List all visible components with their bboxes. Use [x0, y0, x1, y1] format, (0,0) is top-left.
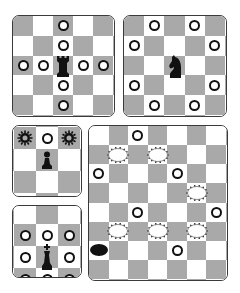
dark-square: [226, 241, 228, 261]
dark-square: [33, 36, 53, 56]
dark-square: [109, 126, 129, 146]
pawn-icon: [37, 147, 57, 173]
light-square: [14, 149, 36, 171]
dark-square: [109, 241, 129, 261]
light-square: [80, 127, 82, 149]
checkers-board: [88, 125, 228, 281]
light-square: [33, 16, 53, 36]
king-moves: [12, 205, 82, 278]
light-square: [167, 126, 187, 146]
dark-square: [226, 203, 228, 223]
light-square: [148, 183, 168, 203]
move-target-dot-icon: [189, 100, 200, 111]
light-square: [93, 36, 113, 56]
white-checker-icon: [147, 222, 169, 240]
dark-square: [13, 95, 33, 115]
light-square: [226, 145, 228, 165]
dark-square: [73, 75, 93, 95]
dark-square: [187, 203, 207, 223]
light-square: [113, 16, 115, 36]
dark-square: [113, 36, 115, 56]
dark-square: [167, 222, 187, 242]
dark-square: [113, 115, 115, 117]
dark-square: [80, 193, 82, 197]
light-square: [13, 75, 33, 95]
dark-square: [144, 75, 165, 95]
dark-square: [206, 145, 226, 165]
dark-square: [225, 36, 227, 56]
light-square: [58, 205, 80, 224]
dark-square: [109, 279, 129, 281]
dark-square: [167, 145, 187, 165]
dark-square: [185, 36, 206, 56]
capture-target-icon: [61, 130, 77, 146]
dark-square: [128, 183, 148, 203]
move-target-dot-icon: [211, 207, 222, 218]
light-square: [33, 95, 53, 115]
dark-square: [148, 164, 168, 184]
move-target-dot-icon: [58, 40, 69, 51]
move-target-dot-icon: [18, 60, 29, 71]
dark-square: [148, 241, 168, 261]
dark-square: [185, 75, 206, 95]
dark-square: [124, 95, 145, 115]
rook-icon: [53, 53, 73, 79]
move-target-dot-icon: [172, 168, 183, 179]
light-square: [73, 95, 93, 115]
light-square: [89, 203, 109, 223]
light-square: [93, 115, 113, 117]
dark-square: [206, 260, 226, 280]
pawn-moves: [12, 125, 82, 197]
light-square: [226, 260, 228, 280]
move-target-dot-icon: [20, 274, 31, 279]
move-target-dot-icon: [42, 274, 53, 279]
dark-square: [93, 95, 113, 115]
dark-square: [144, 36, 165, 56]
white-checker-icon: [107, 222, 129, 240]
dark-square: [164, 16, 185, 36]
move-target-dot-icon: [58, 20, 69, 31]
dark-square: [148, 279, 168, 281]
knight-moves: [123, 15, 227, 117]
light-square: [148, 260, 168, 280]
light-square: [53, 115, 73, 117]
move-target-dot-icon: [38, 60, 49, 71]
move-target-dot-icon: [132, 207, 143, 218]
light-square: [80, 171, 82, 193]
light-square: [109, 183, 129, 203]
light-square: [226, 222, 228, 242]
dark-square: [206, 222, 226, 242]
light-square: [226, 183, 228, 203]
dark-square: [187, 241, 207, 261]
light-square: [206, 164, 226, 184]
dark-square: [164, 95, 185, 115]
light-square: [206, 126, 226, 146]
dark-square: [109, 164, 129, 184]
light-square: [205, 115, 226, 117]
light-square: [89, 126, 109, 146]
light-square: [206, 279, 226, 281]
knight-icon: [165, 53, 185, 79]
move-target-dot-icon: [42, 133, 53, 144]
light-square: [124, 115, 145, 117]
dark-square: [187, 164, 207, 184]
light-square: [14, 205, 36, 224]
light-square: [80, 224, 82, 246]
light-square: [185, 56, 206, 76]
light-square: [128, 164, 148, 184]
dark-square: [13, 16, 33, 36]
move-target-dot-icon: [64, 274, 75, 279]
dark-square: [89, 145, 109, 165]
dark-square: [89, 260, 109, 280]
move-target-dot-icon: [20, 230, 31, 241]
white-checker-icon: [186, 184, 208, 202]
white-checker-icon: [147, 146, 169, 164]
light-square: [80, 268, 82, 278]
dark-square: [128, 222, 148, 242]
dark-square: [187, 126, 207, 146]
dark-square: [124, 56, 145, 76]
dark-square: [89, 183, 109, 203]
dark-square: [89, 222, 109, 242]
move-target-dot-icon: [98, 60, 109, 71]
dark-square: [206, 183, 226, 203]
